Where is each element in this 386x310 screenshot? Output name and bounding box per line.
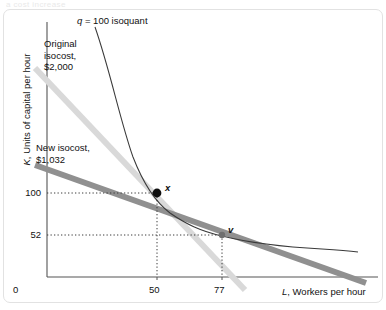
x-axis-label-text: , Workers per hour <box>287 286 366 297</box>
data-point-v-marker <box>219 232 225 238</box>
x-axis-label: L, Workers per hour <box>282 286 366 297</box>
figure-root: a cost increase K, Units of capital per … <box>0 0 386 310</box>
x-tick-label-50: 50 <box>149 284 160 295</box>
y-axis-label-text: , Units of capital per hour <box>21 54 32 160</box>
original-isocost-annotation-line-3: $2,000 <box>44 61 77 73</box>
new-isocost-annotation-line-2: $1,032 <box>36 154 90 166</box>
isoquant-annotation: q = 100 isoquant <box>77 15 148 27</box>
y-axis-label-symbol: K <box>21 159 32 165</box>
original-isocost-annotation: Original isocost, $2,000 <box>44 38 77 73</box>
isoquant-curve <box>95 27 358 252</box>
x-tick-label-0: 0 <box>13 284 18 295</box>
y-axis-label: K, Units of capital per hour <box>21 40 32 180</box>
original-isocost-annotation-line-1: Original <box>44 38 77 50</box>
data-point-v-label: v <box>228 224 233 235</box>
data-point-x-label: x <box>165 182 170 193</box>
isoquant-annotation-text: = 100 isoquant <box>82 15 147 26</box>
y-tick-label-52: 52 <box>10 229 41 240</box>
y-tick-label-100: 100 <box>10 187 41 198</box>
data-point-x-marker <box>153 189 162 198</box>
original-isocost-annotation-line-2: isocost, <box>44 50 77 62</box>
x-tick-label-77: 77 <box>214 284 225 295</box>
new-isocost-annotation: New isocost, $1,032 <box>36 142 90 165</box>
new-isocost-line <box>35 165 366 283</box>
new-isocost-annotation-line-1: New isocost, <box>36 142 90 154</box>
